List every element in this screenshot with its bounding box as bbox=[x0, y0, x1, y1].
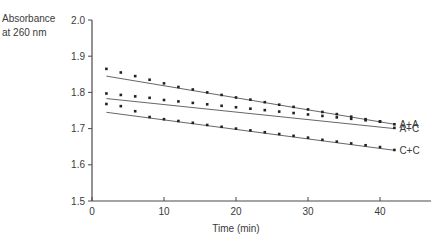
data-point bbox=[235, 96, 238, 99]
data-point bbox=[192, 122, 195, 125]
data-point bbox=[321, 111, 324, 114]
data-point bbox=[148, 78, 151, 81]
data-point bbox=[148, 97, 151, 100]
data-point bbox=[307, 108, 310, 111]
data-point bbox=[192, 102, 195, 105]
data-point bbox=[235, 106, 238, 109]
data-point bbox=[307, 136, 310, 139]
data-point bbox=[177, 100, 180, 103]
data-point bbox=[220, 104, 223, 107]
data-point bbox=[393, 123, 396, 126]
data-point bbox=[206, 103, 209, 106]
data-point bbox=[336, 113, 339, 116]
data-point bbox=[292, 135, 295, 138]
data-point bbox=[292, 106, 295, 109]
data-point bbox=[393, 149, 396, 152]
data-point bbox=[264, 109, 267, 112]
data-point bbox=[206, 124, 209, 127]
series-label-c-c: C+C bbox=[399, 145, 419, 156]
data-point bbox=[134, 75, 137, 78]
data-point bbox=[321, 115, 324, 118]
data-point bbox=[120, 94, 123, 97]
data-point bbox=[163, 99, 166, 102]
data-point bbox=[350, 142, 353, 145]
x-tick-label: 40 bbox=[374, 206, 386, 217]
data-point bbox=[105, 92, 108, 95]
x-tick-label: 0 bbox=[89, 206, 95, 217]
data-point bbox=[134, 95, 137, 98]
x-tick-label: 20 bbox=[230, 206, 242, 217]
data-point bbox=[177, 86, 180, 89]
y-tick-label: 1.6 bbox=[71, 159, 85, 170]
data-point bbox=[278, 103, 281, 106]
data-point bbox=[336, 140, 339, 143]
x-tick-label: 30 bbox=[302, 206, 314, 217]
data-point bbox=[278, 110, 281, 113]
data-point bbox=[379, 146, 382, 149]
x-tick-label: 10 bbox=[158, 206, 170, 217]
data-point bbox=[249, 107, 252, 110]
data-point bbox=[163, 82, 166, 85]
series-label-a-c: A+C bbox=[399, 123, 419, 134]
y-tick-label: 1.8 bbox=[71, 87, 85, 98]
y-tick-label: 1.9 bbox=[71, 51, 85, 62]
data-point bbox=[249, 98, 252, 101]
data-point bbox=[379, 120, 382, 123]
data-point bbox=[278, 133, 281, 136]
absorbance-chart: 1.51.61.71.81.92.0010203040Time (min)A+A… bbox=[0, 0, 439, 241]
data-point bbox=[105, 68, 108, 71]
data-point bbox=[249, 129, 252, 132]
data-point bbox=[321, 139, 324, 142]
data-point bbox=[307, 113, 310, 116]
data-point bbox=[350, 118, 353, 121]
x-axis-label: Time (min) bbox=[212, 223, 259, 234]
data-point bbox=[120, 105, 123, 108]
y-tick-label: 2.0 bbox=[71, 15, 85, 26]
data-point bbox=[235, 127, 238, 130]
data-point bbox=[364, 119, 367, 122]
data-point bbox=[206, 91, 209, 94]
data-point bbox=[134, 110, 137, 113]
y-tick-label: 1.5 bbox=[71, 196, 85, 207]
data-point bbox=[393, 127, 396, 130]
data-point bbox=[177, 120, 180, 123]
fit-line-a-c bbox=[106, 99, 394, 129]
data-point bbox=[105, 103, 108, 106]
data-point bbox=[192, 88, 195, 91]
data-point bbox=[163, 118, 166, 121]
data-point bbox=[148, 116, 151, 119]
data-point bbox=[220, 94, 223, 97]
data-point bbox=[264, 101, 267, 104]
y-tick-label: 1.7 bbox=[71, 123, 85, 134]
data-point bbox=[292, 112, 295, 115]
data-point bbox=[264, 131, 267, 134]
data-point bbox=[364, 144, 367, 147]
data-point bbox=[120, 71, 123, 74]
data-point bbox=[220, 125, 223, 128]
data-point bbox=[336, 116, 339, 119]
